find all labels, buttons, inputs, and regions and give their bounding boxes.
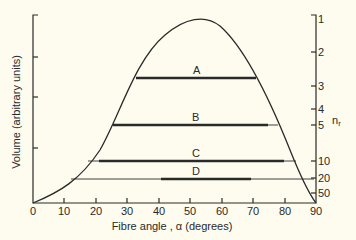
svg-text:3: 3 [318, 80, 324, 92]
svg-text:30: 30 [121, 205, 133, 217]
band-lines [71, 78, 314, 179]
svg-text:80: 80 [279, 205, 291, 217]
svg-text:20: 20 [318, 172, 330, 184]
svg-text:0: 0 [30, 205, 36, 217]
x-tick-labels: 0 10 20 30 40 50 60 70 80 90 [30, 205, 322, 217]
band-label-a: A [193, 64, 201, 76]
y2-tick-labels: 1 2 3 4 5 10 20 50 [318, 13, 330, 199]
svg-text:10: 10 [318, 155, 330, 167]
band-label-b: B [192, 111, 199, 123]
x-axis-label: Fibre angle , α (degrees) [112, 220, 233, 232]
svg-text:90: 90 [310, 205, 322, 217]
volume-curve [33, 19, 316, 203]
svg-text:20: 20 [90, 205, 102, 217]
svg-text:2: 2 [318, 46, 324, 58]
chart: A B C D 0 10 20 30 40 50 60 70 80 90 1 2… [0, 0, 356, 240]
svg-text:50: 50 [318, 187, 330, 199]
svg-text:60: 60 [216, 205, 228, 217]
svg-text:40: 40 [153, 205, 165, 217]
svg-text:5: 5 [318, 119, 324, 131]
svg-text:10: 10 [58, 205, 70, 217]
band-label-d: D [192, 165, 200, 177]
y-axis-label: Volume (arbitrary units) [10, 55, 22, 169]
band-label-c: C [192, 147, 200, 159]
svg-text:50: 50 [184, 205, 196, 217]
svg-text:1: 1 [318, 13, 324, 25]
y2-axis-label: nr [332, 114, 341, 128]
axes [33, 15, 316, 203]
svg-text:4: 4 [318, 103, 324, 115]
svg-text:70: 70 [247, 205, 259, 217]
